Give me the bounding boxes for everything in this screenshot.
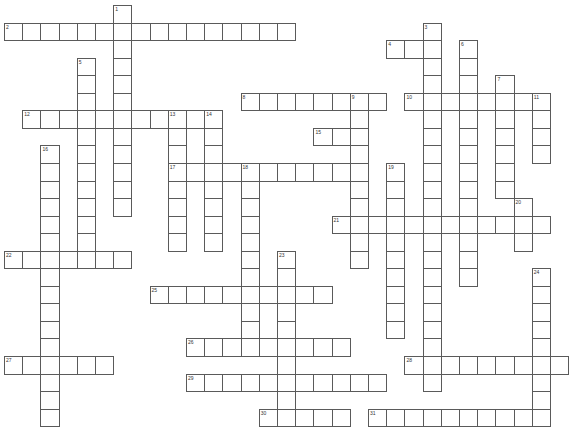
crossword-cell[interactable] (459, 356, 478, 375)
crossword-cell[interactable] (277, 374, 296, 393)
crossword-cell[interactable] (222, 338, 241, 357)
crossword-cell[interactable] (350, 374, 369, 393)
crossword-cell[interactable] (40, 251, 59, 270)
crossword-cell[interactable] (113, 145, 132, 164)
crossword-cell[interactable] (386, 198, 405, 217)
crossword-cell[interactable]: 7 (495, 75, 514, 94)
crossword-cell[interactable]: 12 (22, 110, 41, 129)
crossword-cell[interactable] (204, 145, 223, 164)
crossword-cell[interactable] (277, 286, 296, 305)
crossword-cell[interactable] (259, 286, 278, 305)
crossword-cell[interactable] (441, 93, 460, 112)
crossword-cell[interactable] (295, 338, 314, 357)
crossword-cell[interactable] (113, 128, 132, 147)
crossword-cell[interactable] (404, 409, 423, 428)
crossword-cell[interactable] (423, 233, 442, 252)
crossword-cell[interactable]: 13 (168, 110, 187, 129)
crossword-cell[interactable] (386, 321, 405, 340)
crossword-cell[interactable] (131, 23, 150, 42)
crossword-cell[interactable] (241, 268, 260, 287)
crossword-cell[interactable] (441, 356, 460, 375)
crossword-cell[interactable]: 18 (241, 163, 260, 182)
crossword-cell[interactable] (113, 110, 132, 129)
crossword-cell[interactable] (95, 110, 114, 129)
crossword-cell[interactable] (40, 303, 59, 322)
crossword-cell[interactable] (40, 198, 59, 217)
crossword-cell[interactable] (277, 268, 296, 287)
crossword-cell[interactable] (477, 356, 496, 375)
crossword-cell[interactable] (459, 145, 478, 164)
crossword-cell[interactable] (40, 110, 59, 129)
crossword-cell[interactable] (532, 110, 551, 129)
crossword-cell[interactable] (477, 93, 496, 112)
crossword-cell[interactable] (368, 93, 387, 112)
crossword-cell[interactable] (204, 216, 223, 235)
crossword-cell[interactable] (40, 23, 59, 42)
crossword-cell[interactable] (532, 409, 551, 428)
crossword-cell[interactable] (113, 23, 132, 42)
crossword-cell[interactable]: 19 (386, 163, 405, 182)
crossword-cell[interactable]: 4 (386, 40, 405, 59)
crossword-cell[interactable] (259, 93, 278, 112)
crossword-cell[interactable] (204, 23, 223, 42)
crossword-cell[interactable]: 28 (404, 356, 423, 375)
crossword-cell[interactable] (332, 93, 351, 112)
crossword-cell[interactable] (259, 163, 278, 182)
crossword-cell[interactable] (350, 181, 369, 200)
crossword-cell[interactable] (295, 163, 314, 182)
crossword-cell[interactable] (113, 75, 132, 94)
crossword-cell[interactable] (404, 40, 423, 59)
crossword-cell[interactable]: 15 (313, 128, 332, 147)
crossword-cell[interactable] (59, 356, 78, 375)
crossword-cell[interactable] (277, 23, 296, 42)
crossword-cell[interactable] (40, 181, 59, 200)
crossword-cell[interactable] (22, 23, 41, 42)
crossword-cell[interactable] (459, 93, 478, 112)
crossword-cell[interactable] (350, 110, 369, 129)
crossword-cell[interactable]: 31 (368, 409, 387, 428)
crossword-cell[interactable] (495, 163, 514, 182)
crossword-cell[interactable] (532, 145, 551, 164)
crossword-cell[interactable] (59, 23, 78, 42)
crossword-cell[interactable] (222, 23, 241, 42)
crossword-cell[interactable] (241, 233, 260, 252)
crossword-cell[interactable] (495, 128, 514, 147)
crossword-cell[interactable] (423, 338, 442, 357)
crossword-cell[interactable]: 6 (459, 40, 478, 59)
crossword-cell[interactable] (423, 216, 442, 235)
crossword-cell[interactable] (186, 110, 205, 129)
crossword-cell[interactable] (423, 251, 442, 270)
crossword-cell[interactable] (259, 338, 278, 357)
crossword-cell[interactable] (532, 374, 551, 393)
crossword-cell[interactable] (40, 356, 59, 375)
crossword-cell[interactable] (477, 409, 496, 428)
crossword-cell[interactable] (423, 356, 442, 375)
crossword-cell[interactable] (495, 409, 514, 428)
crossword-cell[interactable] (222, 374, 241, 393)
crossword-cell[interactable] (168, 181, 187, 200)
crossword-cell[interactable] (186, 286, 205, 305)
crossword-cell[interactable] (459, 110, 478, 129)
crossword-cell[interactable] (113, 251, 132, 270)
crossword-cell[interactable] (40, 338, 59, 357)
crossword-cell[interactable] (313, 338, 332, 357)
crossword-cell[interactable] (295, 409, 314, 428)
crossword-cell[interactable]: 23 (277, 251, 296, 270)
crossword-cell[interactable]: 3 (423, 23, 442, 42)
crossword-cell[interactable] (386, 268, 405, 287)
crossword-cell[interactable] (77, 181, 96, 200)
crossword-cell[interactable] (423, 163, 442, 182)
crossword-cell[interactable] (95, 356, 114, 375)
crossword-cell[interactable] (222, 286, 241, 305)
crossword-cell[interactable] (113, 40, 132, 59)
crossword-cell[interactable] (350, 233, 369, 252)
crossword-cell[interactable] (241, 181, 260, 200)
crossword-cell[interactable] (204, 233, 223, 252)
crossword-cell[interactable] (423, 128, 442, 147)
crossword-cell[interactable] (532, 216, 551, 235)
crossword-cell[interactable] (532, 356, 551, 375)
crossword-cell[interactable] (313, 409, 332, 428)
crossword-cell[interactable] (113, 181, 132, 200)
crossword-cell[interactable] (495, 181, 514, 200)
crossword-cell[interactable] (332, 409, 351, 428)
